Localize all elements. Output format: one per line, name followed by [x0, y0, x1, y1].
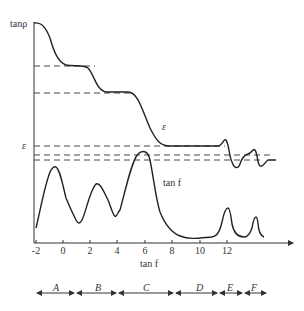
x-tick-label: 4 [115, 245, 120, 256]
region-labels: A B C D E F [52, 282, 258, 293]
x-tick-label: 0 [61, 245, 66, 256]
x-tick-label: 6 [143, 245, 148, 256]
region-c-label: C [143, 282, 150, 293]
x-axis-label: tan f [140, 258, 159, 269]
x-axis-tick-labels: -2 0 2 4 6 8 10 12 [32, 245, 232, 256]
region-b-label: B [95, 282, 101, 293]
x-tick-label: 8 [170, 245, 175, 256]
tan-f-curve [36, 152, 264, 239]
x-tick-label: -2 [32, 245, 40, 256]
region-f-label: F [250, 282, 258, 293]
tan-f-curve-label: tan f [163, 177, 182, 188]
x-tick-label: 12 [222, 245, 232, 256]
dielectric-dispersion-diagram: -2 0 2 4 6 8 10 12 tanρ ε tan f ε tan f … [0, 0, 304, 311]
x-tick-label: 10 [195, 245, 205, 256]
region-d-label: D [195, 282, 204, 293]
x-tick-label: 2 [88, 245, 93, 256]
region-e-label: E [226, 282, 233, 293]
region-a-label: A [52, 282, 60, 293]
epsilon-curve-label: ε [162, 121, 166, 132]
y-axis-epsilon-label: ε [22, 140, 26, 151]
y-axis-label: tanρ [10, 18, 27, 29]
